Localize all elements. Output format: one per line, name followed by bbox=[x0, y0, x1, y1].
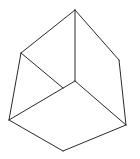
edge-upper-left-lower-left bbox=[9, 53, 21, 120]
edge-center-lower-left bbox=[9, 81, 75, 120]
edge-upper-right-lower-right bbox=[119, 60, 126, 125]
edge-upper-left-mid-left bbox=[21, 53, 63, 88]
edge-lower-left-bottom bbox=[9, 120, 63, 151]
cube-edges bbox=[9, 10, 126, 151]
cube-diagram bbox=[0, 0, 140, 159]
edge-top-upper-right bbox=[75, 10, 119, 60]
edge-top-upper-left bbox=[21, 10, 75, 53]
edge-center-lower-right bbox=[75, 81, 126, 125]
edge-bottom-lower-right bbox=[63, 125, 126, 151]
